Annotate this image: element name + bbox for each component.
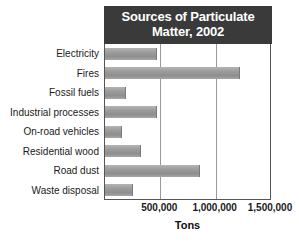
bar xyxy=(105,87,126,99)
chart-title-line-2: Matter, 2002 xyxy=(152,24,224,39)
category-label: Fossil fuels xyxy=(49,83,99,103)
bar-row xyxy=(105,64,240,84)
x-tick-label: 1,000,000 xyxy=(192,202,237,213)
bar xyxy=(105,48,157,60)
bar xyxy=(105,165,200,177)
bars-layer xyxy=(105,44,270,199)
category-label: Residential wood xyxy=(23,142,99,162)
category-label: Road dust xyxy=(53,161,99,181)
category-label: Industrial processes xyxy=(10,103,99,123)
bar-row xyxy=(105,44,157,64)
bar xyxy=(105,106,157,118)
x-axis-title: Tons xyxy=(104,219,271,231)
bar-row xyxy=(105,83,126,103)
chart-title-line-1: Sources of Particulate xyxy=(122,9,255,24)
bar-row xyxy=(105,161,200,181)
x-axis-tick-labels: 500,0001,000,0001,500,000 xyxy=(0,202,299,216)
category-label: Fires xyxy=(77,64,99,84)
category-label: On-road vehicles xyxy=(23,122,99,142)
bar xyxy=(105,67,240,79)
x-tick-label: 1,500,000 xyxy=(248,202,293,213)
bar-row xyxy=(105,103,157,123)
x-tick-label: 500,000 xyxy=(141,202,177,213)
chart-title: Sources of Particulate Matter, 2002 xyxy=(118,10,259,39)
category-axis-labels: ElectricityFiresFossil fuelsIndustrial p… xyxy=(0,44,102,200)
bar xyxy=(105,184,133,196)
plot-area xyxy=(104,44,271,200)
bar xyxy=(105,145,141,157)
category-label: Waste disposal xyxy=(32,181,99,201)
bar-chart-figure: Sources of Particulate Matter, 2002 Elec… xyxy=(0,0,299,251)
category-label: Electricity xyxy=(56,44,99,64)
bar-row xyxy=(105,142,141,162)
bar-row xyxy=(105,122,122,142)
bar-row xyxy=(105,181,133,201)
bar xyxy=(105,126,122,138)
chart-title-banner: Sources of Particulate Matter, 2002 xyxy=(104,6,272,44)
